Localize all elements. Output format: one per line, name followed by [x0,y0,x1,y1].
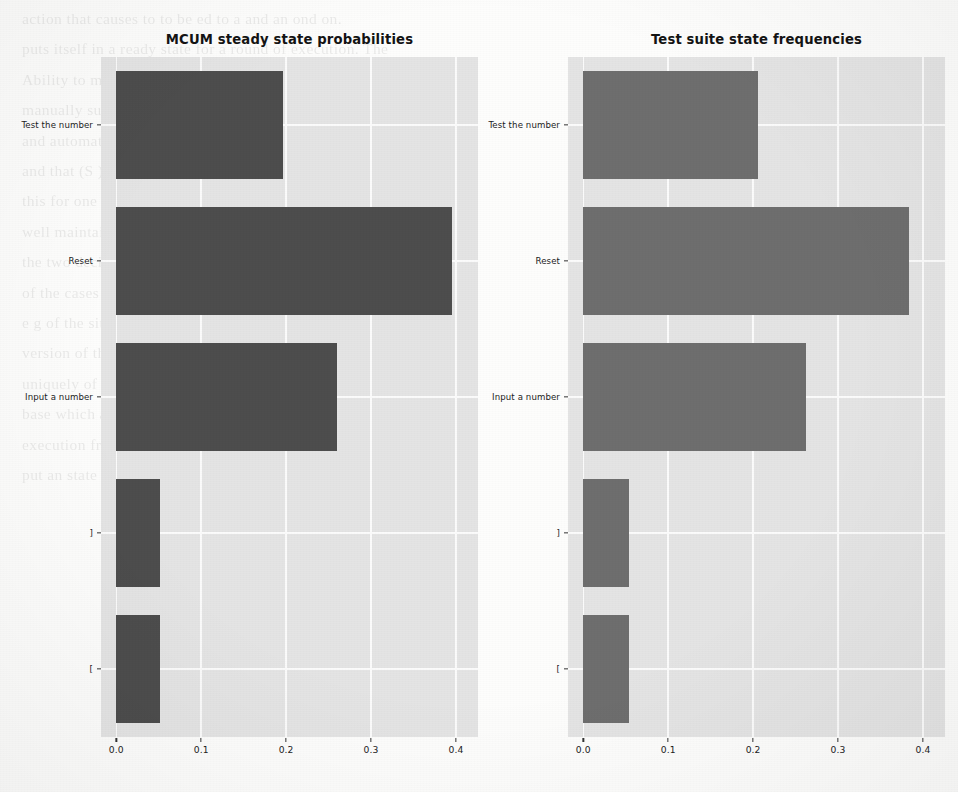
x-axis-tick-mark [752,738,753,742]
x-axis-tick-label: 0.3 [364,744,379,755]
y-axis-tick-mark [97,668,101,669]
x-axis-tick-label: 0.4 [915,744,930,755]
plot-area [101,57,478,737]
y-axis-tick-mark [97,396,101,397]
y-axis-tick-label: ] [11,528,93,538]
y-axis-tick-mark [97,124,101,125]
x-axis-tick-mark [455,738,456,742]
y-axis-tick-mark [564,124,568,125]
y-axis-tick-label: Test the number [478,120,560,130]
y-axis-tick-label: ] [478,528,560,538]
y-axis-tick-label: [ [478,664,560,674]
x-axis-tick-label: 0.0 [109,744,124,755]
y-axis-tick-mark [564,396,568,397]
bar [116,615,160,724]
y-axis-tick-label: [ [11,664,93,674]
y-axis-tick-mark [564,668,568,669]
y-axis-tick-mark [97,532,101,533]
x-axis-tick-mark [922,738,923,742]
bar [116,343,337,452]
y-axis-tick-label: Input a number [478,392,560,402]
x-axis-tick-mark [116,738,117,742]
chart-title: MCUM steady state probabilities [101,32,478,47]
y-axis-tick-mark [97,260,101,261]
x-axis-tick-label: 0.1 [661,744,676,755]
y-axis-tick-label: Reset [478,256,560,266]
y-axis-tick-mark [564,532,568,533]
x-axis-tick-label: 0.3 [831,744,846,755]
y-axis-tick-label: Test the number [11,120,93,130]
x-axis-tick-label: 0.2 [279,744,294,755]
x-axis-tick-mark [837,738,838,742]
x-axis-tick-mark [668,738,669,742]
bar [116,71,282,180]
x-axis-tick-label: 0.1 [194,744,209,755]
chart-title: Test suite state frequencies [568,32,945,47]
x-axis-tick-label: 0.2 [746,744,761,755]
bar [583,615,629,724]
x-axis-tick-mark [370,738,371,742]
y-axis-tick-label: Reset [11,256,93,266]
bar [583,479,629,588]
x-axis-tick-mark [285,738,286,742]
bar [583,207,909,316]
x-axis-tick-label: 0.0 [576,744,591,755]
x-axis-tick-mark [201,738,202,742]
bar [583,71,758,180]
x-axis-tick-mark [583,738,584,742]
bar [583,343,805,452]
plot-area [568,57,945,737]
bar-chart-figure: MCUM steady state probabilitiesTest the … [0,0,958,792]
bar [116,207,451,316]
y-axis-tick-mark [564,260,568,261]
x-axis-tick-label: 0.4 [448,744,463,755]
bar [116,479,160,588]
y-axis-tick-label: Input a number [11,392,93,402]
